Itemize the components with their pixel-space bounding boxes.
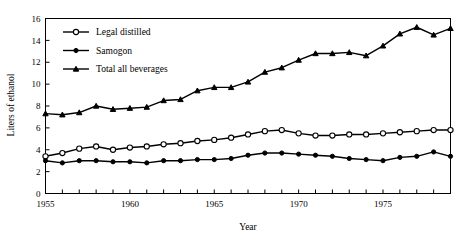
data-point-marker: [262, 129, 267, 134]
data-point-marker: [161, 142, 166, 147]
y-axis-ticks: 0246810121416: [32, 14, 50, 199]
data-point-marker: [280, 151, 284, 155]
legend-label: Legal distilled: [96, 27, 151, 37]
data-point-marker: [195, 138, 200, 143]
data-point-marker: [313, 51, 318, 56]
data-point-marker: [245, 132, 250, 137]
legend-label: Samogon: [96, 46, 132, 56]
data-point-marker: [330, 133, 335, 138]
data-point-marker: [77, 159, 81, 163]
y-tick-label: 6: [36, 123, 41, 133]
data-point-marker: [330, 154, 334, 158]
data-point-marker: [313, 153, 317, 157]
y-tick-label: 16: [32, 14, 42, 24]
data-point-marker: [195, 88, 200, 93]
data-point-marker: [279, 65, 284, 70]
data-point-marker: [94, 144, 99, 149]
data-point-marker: [397, 31, 402, 36]
data-point-marker: [178, 159, 182, 163]
data-point-marker: [330, 51, 335, 56]
data-point-marker: [161, 98, 166, 103]
data-point-marker: [178, 141, 183, 146]
data-point-marker: [414, 129, 419, 134]
data-point-marker: [381, 159, 385, 163]
data-point-marker: [246, 153, 250, 157]
series-samogon: [43, 150, 452, 165]
data-point-marker: [110, 147, 115, 152]
data-point-marker: [74, 48, 78, 52]
y-tick-label: 10: [32, 79, 42, 89]
data-point-marker: [296, 57, 301, 62]
data-point-marker: [43, 111, 48, 116]
data-point-marker: [73, 66, 78, 71]
data-point-marker: [262, 69, 267, 74]
y-tick-label: 14: [32, 36, 42, 46]
data-point-marker: [195, 157, 199, 161]
data-point-marker: [448, 127, 453, 132]
data-point-marker: [398, 155, 402, 159]
data-point-marker: [347, 132, 352, 137]
y-tick-label: 0: [36, 189, 41, 199]
data-point-marker: [73, 29, 78, 34]
data-point-marker: [347, 50, 352, 55]
y-tick-label: 8: [36, 101, 41, 111]
data-point-marker: [432, 150, 436, 154]
chart-figure: 0246810121416 19551960196519701975 Liter…: [0, 0, 467, 238]
data-point-marker: [77, 146, 82, 151]
data-point-marker: [397, 130, 402, 135]
data-point-marker: [229, 135, 234, 140]
data-point-marker: [212, 137, 217, 142]
data-point-marker: [415, 154, 419, 158]
data-point-marker: [93, 103, 98, 108]
data-point-marker: [448, 154, 452, 158]
data-point-marker: [110, 107, 115, 112]
data-point-marker: [60, 161, 64, 165]
x-tick-label: 1955: [37, 199, 56, 209]
legend-label: Total all beverages: [96, 64, 168, 74]
x-axis-label: Year: [239, 222, 257, 232]
data-point-marker: [60, 150, 65, 155]
x-tick-label: 1960: [121, 199, 140, 209]
data-point-marker: [212, 85, 217, 90]
line-chart: 0246810121416 19551960196519701975 Liter…: [0, 0, 467, 238]
data-point-marker: [60, 112, 65, 117]
x-tick-label: 1965: [205, 199, 224, 209]
y-tick-label: 2: [36, 167, 41, 177]
data-point-marker: [263, 151, 267, 155]
data-point-marker: [448, 26, 453, 31]
data-point-marker: [414, 25, 419, 30]
y-tick-label: 4: [36, 145, 41, 155]
chart-legend: Legal distilledSamogonTotal all beverage…: [63, 27, 168, 74]
data-point-marker: [77, 110, 82, 115]
data-point-marker: [347, 156, 351, 160]
legend-item-total-all-beverages[interactable]: Total all beverages: [63, 64, 168, 74]
legend-item-legal-distilled[interactable]: Legal distilled: [63, 27, 151, 37]
data-point-marker: [212, 157, 216, 161]
data-point-marker: [279, 127, 284, 132]
data-point-marker: [144, 144, 149, 149]
data-point-marker: [127, 145, 132, 150]
data-point-marker: [127, 105, 132, 110]
data-point-marker: [363, 53, 368, 58]
data-point-marker: [364, 132, 369, 137]
data-point-marker: [313, 133, 318, 138]
data-point-marker: [228, 85, 233, 90]
data-point-marker: [297, 152, 301, 156]
data-point-marker: [245, 79, 250, 84]
data-point-marker: [162, 159, 166, 163]
data-point-marker: [94, 159, 98, 163]
x-axis-ticks: 19551960196519701975: [37, 190, 451, 209]
data-point-marker: [178, 97, 183, 102]
x-tick-label: 1975: [374, 199, 393, 209]
legend-item-samogon[interactable]: Samogon: [63, 46, 132, 56]
data-point-marker: [364, 157, 368, 161]
data-point-marker: [43, 159, 47, 163]
data-point-marker: [431, 32, 436, 37]
plot-frame: [46, 19, 451, 194]
x-tick-label: 1970: [290, 199, 309, 209]
data-point-marker: [111, 160, 115, 164]
data-point-marker: [144, 104, 149, 109]
data-point-marker: [431, 127, 436, 132]
y-tick-label: 12: [32, 57, 41, 67]
data-point-marker: [229, 156, 233, 160]
